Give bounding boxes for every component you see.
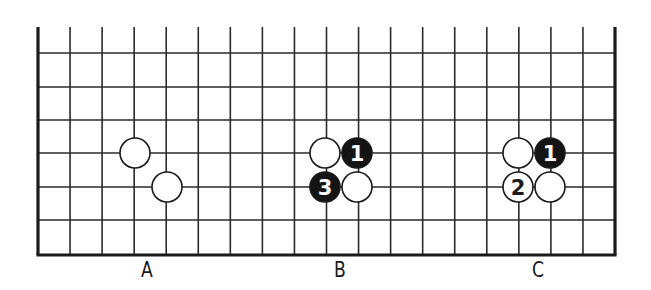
panel-label-a: A	[135, 258, 160, 282]
stones: 1312	[120, 138, 565, 202]
white-stone	[152, 172, 182, 202]
panel-label-b: B	[328, 258, 353, 282]
white-stone-2: 2	[503, 172, 533, 202]
stone-move-number: 2	[511, 176, 526, 200]
stone-move-number: 3	[318, 176, 333, 200]
go-board: 1312	[0, 0, 651, 290]
black-stone-1: 1	[535, 138, 565, 168]
white-stone	[310, 138, 340, 168]
stone-move-number: 1	[543, 142, 558, 166]
white-stone	[535, 172, 565, 202]
white-stone	[503, 138, 533, 168]
white-stone	[120, 138, 150, 168]
panel-label-c: C	[526, 258, 551, 282]
black-stone-1: 1	[342, 138, 372, 168]
stone-move-number: 1	[350, 142, 365, 166]
white-stone	[342, 172, 372, 202]
black-stone-3: 3	[310, 172, 340, 202]
